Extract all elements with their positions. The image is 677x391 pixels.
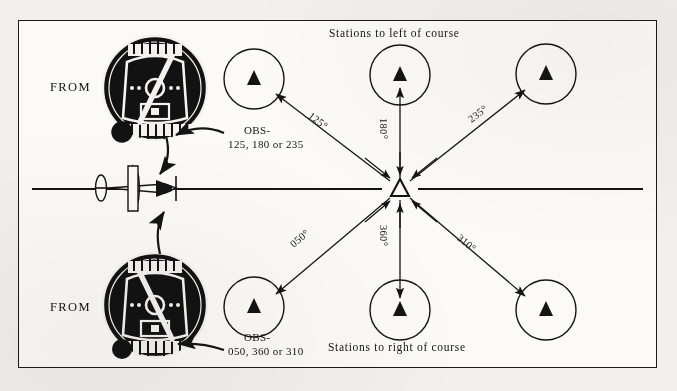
obs-label-bottom-line1: OBS- bbox=[244, 330, 271, 344]
radial-label-180: 180° bbox=[378, 118, 389, 139]
radial-label-360: 360° bbox=[378, 225, 389, 246]
obs-label-top-line2: 125, 180 or 235 bbox=[228, 137, 304, 151]
caption-bottom: Stations to right of course bbox=[328, 341, 466, 353]
station-upper-left bbox=[224, 49, 284, 109]
aircraft-position-triangle bbox=[391, 179, 409, 196]
vor-indicator-top bbox=[103, 36, 207, 142]
callout-dial-bottom-to-aircraft bbox=[158, 212, 164, 254]
callout-dial-top-to-aircraft bbox=[160, 136, 168, 174]
station-upper-right bbox=[516, 44, 576, 104]
caption-top: Stations to left of course bbox=[329, 27, 460, 39]
from-label-bottom: FROM bbox=[50, 300, 91, 315]
radial-235 bbox=[410, 90, 525, 181]
station-lower-left bbox=[224, 277, 284, 337]
from-label-top: FROM bbox=[50, 80, 91, 95]
obs-label-top-line1: OBS- bbox=[244, 123, 271, 137]
diagram-canvas bbox=[0, 0, 677, 391]
figure-root: Stations to left of course Stations to r… bbox=[0, 0, 677, 391]
obs-label-bottom-line2: 050, 360 or 310 bbox=[228, 344, 304, 358]
aircraft-symbol bbox=[96, 166, 177, 211]
station-lower-right bbox=[516, 280, 576, 340]
